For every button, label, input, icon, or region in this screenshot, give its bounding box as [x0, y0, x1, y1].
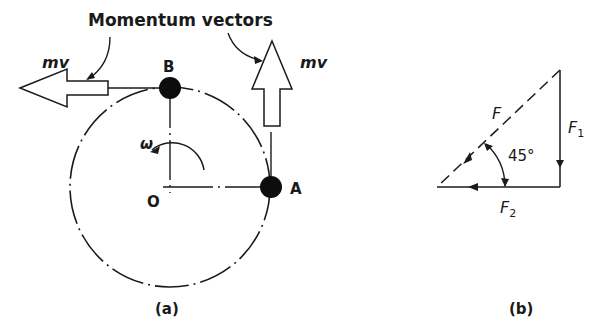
caption-a: (a)	[155, 300, 179, 318]
label-point-a: A	[290, 180, 302, 198]
label-angle: 45°	[508, 147, 535, 165]
momentum-vectors-title: Momentum vectors	[88, 10, 273, 30]
momentum-arrow-a	[252, 41, 292, 126]
label-center-o: O	[147, 193, 160, 211]
label-omega: ω	[140, 135, 153, 153]
mass-a	[260, 176, 282, 198]
label-f1: F1	[568, 118, 584, 140]
label-resultant-f: F	[492, 104, 501, 123]
label-f2: F2	[500, 198, 516, 220]
caption-b: (b)	[509, 300, 533, 318]
diagram-graphics	[0, 0, 605, 336]
momentum-diagram: Momentum vectors mv mv B A O ω (a) F F1 …	[0, 0, 605, 336]
mass-b	[159, 77, 181, 99]
label-point-b: B	[163, 58, 174, 76]
label-mv-up: mv	[300, 53, 327, 72]
label-mv-left: mv	[42, 53, 69, 72]
resultant-force-f	[437, 70, 560, 187]
